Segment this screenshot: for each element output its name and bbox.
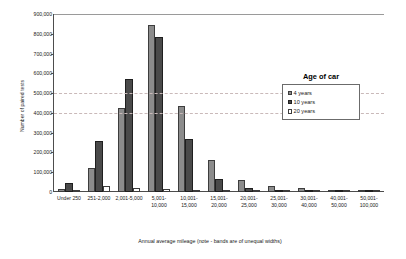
bar	[313, 190, 321, 192]
bar	[365, 190, 373, 192]
x-axis-tick-labels: Under 250251-2,0002,001-5,0005,001-10,00…	[54, 195, 384, 229]
legend-swatch-icon	[288, 109, 292, 113]
bar	[88, 168, 96, 192]
bar	[373, 190, 381, 192]
y-tick-label: 300,000	[22, 130, 52, 136]
bar	[245, 188, 253, 192]
legend-label: 4 years	[294, 90, 312, 96]
bar-group	[174, 14, 204, 192]
legend-swatch-icon	[288, 100, 292, 104]
x-tick-label: 40,001-50,000	[324, 195, 354, 229]
y-tick-mark	[51, 152, 54, 153]
bar-group	[144, 14, 174, 192]
x-tick-label: 5,001-10,000	[144, 195, 174, 229]
bar	[275, 190, 283, 192]
x-tick-label: Under 250	[54, 195, 84, 229]
bar	[65, 183, 73, 192]
bar	[335, 190, 343, 192]
bar	[103, 186, 111, 192]
x-tick-label: 25,001-30,000	[264, 195, 294, 229]
bar	[133, 188, 141, 192]
bar	[208, 160, 216, 192]
bar-group	[114, 14, 144, 192]
legend-label: 20 years	[294, 108, 315, 114]
y-tick-label: 400,000	[22, 110, 52, 116]
bar	[343, 190, 351, 192]
x-tick-label: 2,001-5,000	[114, 195, 144, 229]
y-tick-label: 0	[22, 189, 52, 195]
legend-swatch-icon	[288, 91, 292, 95]
legend: Age of car 4 years10 years20 years	[282, 72, 360, 120]
bar	[283, 190, 291, 192]
x-tick-label: 50,001-100,000	[354, 195, 384, 229]
y-tick-mark	[51, 172, 54, 173]
y-tick-label: 100,000	[22, 169, 52, 175]
y-tick-label: 900,000	[22, 11, 52, 17]
legend-item[interactable]: 10 years	[288, 99, 354, 105]
bar	[253, 190, 261, 192]
bar	[125, 79, 133, 192]
y-tick-label: 700,000	[22, 51, 52, 57]
bar	[268, 186, 276, 192]
legend-title: Age of car	[282, 72, 360, 81]
bar	[305, 190, 313, 192]
x-tick-label: 10,001-15,000	[174, 195, 204, 229]
bar	[95, 141, 103, 192]
y-tick-label: 600,000	[22, 70, 52, 76]
y-tick-mark	[51, 133, 54, 134]
y-tick-mark	[51, 34, 54, 35]
bar-group	[54, 14, 84, 192]
y-tick-label: 200,000	[22, 149, 52, 155]
x-tick-label: 30,001-40,000	[294, 195, 324, 229]
bar	[58, 189, 66, 192]
bar	[298, 188, 306, 192]
bar-group	[234, 14, 264, 192]
bar-group	[84, 14, 114, 192]
y-tick-mark	[51, 54, 54, 55]
x-tick-label: 20,001-25,000	[234, 195, 264, 229]
bar	[163, 189, 171, 192]
legend-item[interactable]: 20 years	[288, 108, 354, 114]
y-axis-tick-labels: 900,000800,000700,000600,000500,000400,0…	[22, 14, 52, 192]
legend-box: 4 years10 years20 years	[282, 84, 360, 120]
bar	[155, 37, 163, 192]
bar	[358, 190, 366, 192]
bar-group	[204, 14, 234, 192]
bar	[148, 25, 156, 192]
bar	[118, 108, 126, 192]
bar	[73, 190, 81, 192]
bar	[185, 139, 193, 192]
bar	[223, 190, 231, 192]
y-tick-label: 800,000	[22, 31, 52, 37]
bar	[328, 190, 336, 192]
y-tick-mark	[51, 73, 54, 74]
bar-chart: Number of paired tests 900,000800,000700…	[0, 0, 406, 259]
y-tick-label: 500,000	[22, 90, 52, 96]
legend-label: 10 years	[294, 99, 315, 105]
x-tick-label: 251-2,000	[84, 195, 114, 229]
legend-item[interactable]: 4 years	[288, 90, 354, 96]
x-axis-title: Annual average mileage (note - bands are…	[40, 238, 380, 244]
bar	[178, 106, 186, 192]
bar	[238, 180, 246, 192]
bar	[193, 190, 201, 192]
bar	[215, 179, 223, 192]
x-tick-label: 15,001-20,000	[204, 195, 234, 229]
